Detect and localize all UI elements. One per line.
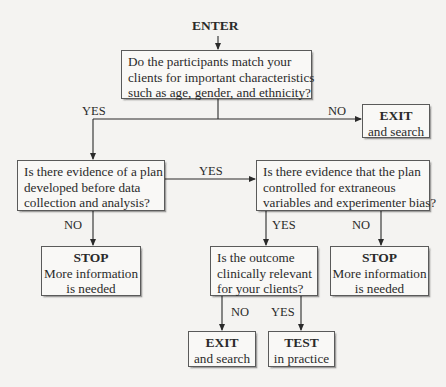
q2-line-1: Is there evidence of a plan xyxy=(24,164,164,180)
test-head: TEST xyxy=(269,335,334,351)
edge-label-q3-no: NO xyxy=(352,218,370,233)
q4-line-3: for your clients? xyxy=(217,281,317,297)
question-outcome-clinically-relevant: Is the outcome clinically relevant for y… xyxy=(210,246,318,296)
q1-line-1: Do the participants match your xyxy=(128,54,311,70)
exit1-head: EXIT xyxy=(363,108,429,124)
stop2-sub-2: is needed xyxy=(331,281,428,297)
stop-more-info-box-left: STOP More information is needed xyxy=(41,246,141,296)
exit1-sub: and search xyxy=(363,124,429,140)
edge-label-q2-no: NO xyxy=(64,218,82,233)
q4-line-2: clinically relevant xyxy=(217,266,317,282)
edge-label-q3-yes: YES xyxy=(272,218,296,233)
exit2-head: EXIT xyxy=(189,335,255,351)
stop-more-info-box-right: STOP More information is needed xyxy=(330,246,429,296)
exit-and-search-box-top: EXIT and search xyxy=(362,104,430,138)
edge-label-q1-no: NO xyxy=(328,104,346,119)
question-plan-controlled-bias: Is there evidence that the plan controll… xyxy=(256,160,430,211)
stop1-sub-1: More information xyxy=(42,266,140,282)
edge-label-q4-yes: YES xyxy=(271,305,295,320)
test-sub: in practice xyxy=(269,351,334,367)
question-plan-developed-before: Is there evidence of a plan developed be… xyxy=(17,160,165,211)
test-in-practice-box: TEST in practice xyxy=(268,331,335,367)
exit-and-search-box-bottom: EXIT and search xyxy=(188,331,256,367)
question-participants-match: Do the participants match your clients f… xyxy=(121,50,312,99)
edge-label-q1-yes: YES xyxy=(82,104,106,119)
edge-label-q4-no: NO xyxy=(231,305,249,320)
q2-line-2: developed before data xyxy=(24,180,164,196)
stop1-sub-2: is needed xyxy=(42,281,140,297)
enter-label: ENTER xyxy=(192,18,239,34)
q3-line-2: controlled for extraneous xyxy=(263,180,429,196)
stop2-sub-1: More information xyxy=(331,266,428,282)
exit2-sub: and search xyxy=(189,351,255,367)
q1-line-3: such as age, gender, and ethnicity? xyxy=(128,85,311,101)
q3-line-3: variables and experimenter bias? xyxy=(263,195,429,211)
q2-line-3: collection and analysis? xyxy=(24,195,164,211)
q1-line-2: clients for important characteristics xyxy=(128,70,311,86)
edge-label-q2-yes: YES xyxy=(199,164,223,179)
stop1-head: STOP xyxy=(42,250,140,266)
q3-line-1: Is there evidence that the plan xyxy=(263,164,429,180)
q4-line-1: Is the outcome xyxy=(217,250,317,266)
stop2-head: STOP xyxy=(331,250,428,266)
